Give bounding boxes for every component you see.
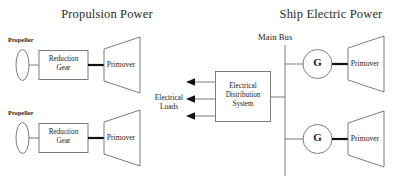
- electrical-loads-label-line2: Loads: [151, 102, 187, 111]
- ship-power-diagram: Propulsion Power Ship Electric Power Pro…: [0, 0, 415, 183]
- diagram-vector-layer: [0, 0, 415, 183]
- generator-letter-2: G: [303, 132, 332, 144]
- load-arrow-head-1: [186, 78, 195, 86]
- primover-label-1: Primover: [104, 61, 138, 69]
- load-arrow-head-2: [186, 95, 195, 103]
- ship-electric-power-title: Ship Electric Power: [258, 8, 404, 21]
- reduction-gear-label-2-line1: Reduction: [39, 129, 88, 137]
- propeller-shape-2: [16, 123, 29, 154]
- distribution-box-label-line3: System: [215, 101, 271, 109]
- generator-primover-label-1: Primover: [348, 60, 382, 68]
- generator-primover-label-2: Primover: [348, 135, 382, 143]
- reduction-gear-label-2-line2: Gear: [39, 138, 88, 146]
- distribution-box-label-line2: Distribution: [215, 92, 271, 100]
- propeller-label-1: Propeller: [8, 37, 34, 44]
- load-arrow-head-3: [186, 112, 195, 120]
- propeller-label-2: Propeller: [8, 110, 34, 117]
- distribution-box-label-line1: Electrical: [215, 83, 271, 91]
- main-bus-label: Main Bus: [258, 33, 292, 42]
- reduction-gear-label-1-line1: Reduction: [39, 56, 88, 64]
- propeller-shape-1: [16, 50, 29, 81]
- electrical-loads-label-line1: Electrical: [151, 93, 187, 102]
- propulsion-power-title: Propulsion Power: [37, 8, 177, 21]
- primover-label-2: Primover: [104, 134, 138, 142]
- reduction-gear-label-1-line2: Gear: [39, 65, 88, 73]
- generator-letter-1: G: [303, 57, 332, 69]
